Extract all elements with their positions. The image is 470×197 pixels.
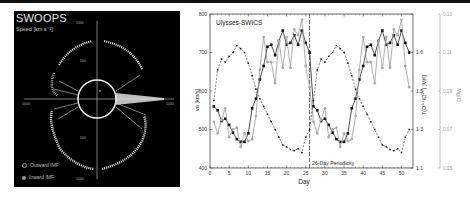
data-point (270, 61, 273, 64)
data-point (396, 44, 399, 47)
data-point (366, 45, 369, 48)
data-point (289, 67, 292, 70)
data-point (274, 82, 277, 85)
data-point (297, 34, 300, 37)
data-point (308, 51, 311, 54)
data-point (351, 75, 353, 77)
data-point (373, 54, 376, 57)
data-point (266, 61, 269, 64)
data-point (335, 126, 338, 129)
data-point (251, 75, 253, 77)
data-point (235, 126, 238, 129)
data-point (240, 48, 242, 50)
data-point (408, 51, 411, 54)
data-point (389, 42, 392, 45)
data-point (327, 136, 330, 139)
y-tick-label: 500 (199, 126, 208, 132)
data-point (290, 149, 292, 151)
data-point (213, 105, 216, 108)
data-point (405, 136, 407, 138)
ulysses-swics-chart: 051015202530354045504005006007008001.11.… (0, 0, 470, 197)
y-right-tick-label: 1.3 (416, 126, 423, 132)
data-point (358, 68, 361, 71)
data-point (251, 138, 254, 141)
data-point (243, 141, 246, 144)
data-point (366, 113, 368, 115)
data-point (228, 56, 230, 58)
data-point (304, 65, 307, 68)
data-point (281, 67, 284, 70)
data-point (362, 106, 364, 108)
data-point (255, 88, 257, 90)
data-point (232, 128, 235, 131)
y-right-axis-label: T(O⁶⁺/O⁷⁺) [MK] (421, 74, 427, 115)
data-point (274, 129, 276, 131)
data-point (217, 69, 219, 71)
data-point (285, 36, 288, 39)
y-axis-label: vα [km/s] (194, 88, 200, 111)
data-point (289, 42, 292, 45)
data-point (332, 52, 334, 54)
data-point (312, 120, 315, 123)
y-right-tick-label: 1.6 (416, 49, 423, 55)
data-point (278, 136, 280, 138)
data-point (271, 121, 273, 123)
data-point (324, 61, 326, 63)
periodicity-annotation: 26-Day Periodicity (312, 160, 354, 166)
data-point (350, 107, 353, 110)
data-point (228, 136, 231, 139)
x-tick-label: 0 (209, 170, 212, 176)
data-point (370, 44, 373, 47)
data-point (362, 36, 365, 39)
x-tick-label: 15 (265, 170, 271, 176)
y-right2-tick-label: 0.07 (443, 127, 452, 132)
data-point (343, 132, 346, 135)
data-point (255, 115, 258, 118)
data-point (343, 141, 346, 144)
data-point (313, 100, 315, 102)
data-point (224, 107, 227, 110)
data-point (236, 45, 238, 47)
data-point (396, 34, 399, 37)
y-right2-tick-label: 0.11 (443, 50, 452, 55)
data-point (281, 29, 284, 32)
data-point (374, 129, 376, 131)
data-point (232, 52, 234, 54)
data-point (336, 45, 338, 47)
data-point (339, 145, 342, 148)
data-point (339, 48, 341, 50)
data-point (400, 18, 403, 21)
data-point (301, 18, 304, 21)
data-point (262, 65, 265, 68)
x-tick-label: 50 (399, 170, 405, 176)
data-point (382, 144, 384, 146)
data-point (236, 138, 239, 141)
data-point (244, 52, 246, 54)
data-point (220, 118, 223, 121)
data-point (327, 124, 330, 127)
x-tick-label: 40 (360, 170, 366, 176)
y-right2-tick-label: 0.09 (443, 89, 452, 94)
series-line-v_alpha (214, 31, 409, 142)
data-point (294, 150, 296, 152)
data-point (286, 146, 288, 148)
data-point (335, 138, 338, 141)
data-point (355, 88, 357, 90)
y-tick-label: 400 (199, 165, 208, 171)
data-point (389, 149, 391, 151)
data-point (262, 36, 265, 39)
data-point (362, 65, 365, 68)
data-point (347, 132, 350, 135)
data-point (297, 44, 300, 47)
data-point (316, 109, 319, 112)
data-point (393, 150, 395, 152)
y-right2-tick-label: 0.13 (443, 12, 452, 17)
data-point (293, 28, 296, 31)
data-point (297, 148, 299, 150)
data-point (401, 152, 403, 154)
data-point (350, 138, 353, 141)
data-point (316, 132, 319, 135)
data-point (309, 129, 311, 131)
data-point (225, 61, 227, 63)
data-point (347, 63, 349, 65)
